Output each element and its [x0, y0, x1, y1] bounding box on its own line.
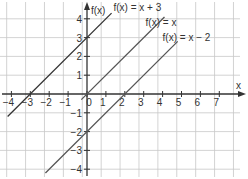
x-tick-label: 1	[100, 97, 106, 108]
y-tick-label: −2	[71, 127, 83, 138]
x-tick-label: 0	[86, 97, 92, 108]
x-tick-label: 5	[176, 97, 182, 108]
x-tick-label: 3	[138, 97, 144, 108]
y-tick-label: −1	[71, 108, 83, 119]
x-tick-label: 6	[195, 97, 201, 108]
labels: f(x) = x + 3f(x) = xf(x) = x − 2	[113, 2, 210, 43]
y-axis-arrow-icon	[84, 2, 90, 10]
function-lines	[8, 13, 178, 173]
y-tick-label: 4	[76, 14, 82, 25]
axes: xf(x)−4−3−2−101234567−4−3−2−11234	[2, 2, 246, 176]
x-tick-label: 4	[157, 97, 163, 108]
function-label: f(x) = x + 3	[113, 2, 161, 13]
x-axis-label: x	[236, 80, 241, 91]
y-tick-label: −4	[71, 164, 83, 175]
grid	[0, 2, 240, 177]
function-graph: xf(x)−4−3−2−101234567−4−3−2−11234 f(x) =…	[0, 0, 248, 179]
x-tick-label: −1	[59, 97, 71, 108]
function-label: f(x) = x	[146, 17, 177, 28]
y-tick-label: 3	[76, 33, 82, 44]
x-tick-label: −4	[3, 97, 15, 108]
y-tick-label: 1	[76, 70, 82, 81]
x-axis-arrow-icon	[238, 91, 246, 97]
function-label: f(x) = x − 2	[163, 32, 211, 43]
y-tick-label: 2	[76, 51, 82, 62]
x-tick-label: −2	[40, 97, 52, 108]
x-tick-label: −3	[22, 97, 34, 108]
y-axis-label: f(x)	[91, 5, 105, 16]
x-tick-label: 7	[214, 97, 220, 108]
function-line	[81, 17, 164, 100]
